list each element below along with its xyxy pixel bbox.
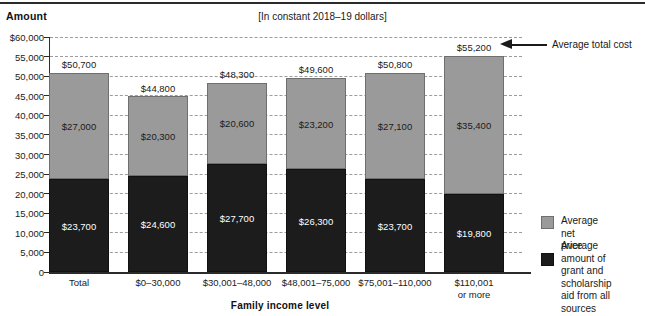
x-category-label: $110,001 or more: [422, 277, 526, 300]
bar-total-label: $48,300: [195, 69, 279, 80]
chart-figure: Amount [In constant 2018–19 dollars] $60…: [0, 0, 645, 316]
bar-segment-net-price[interactable]: $20,600: [207, 83, 267, 164]
bar-segment-value: $24,600: [129, 219, 187, 230]
bar-segment-value: $35,400: [445, 120, 503, 131]
bar-segment-value: $26,300: [287, 216, 345, 227]
bar-segment-value: $20,600: [208, 118, 266, 129]
bar-segment-value: $23,700: [366, 221, 424, 232]
x-axis-title: Family income level: [45, 300, 515, 311]
y-tick-label: 20,000: [15, 188, 44, 199]
bar-segment-value: $19,800: [445, 228, 503, 239]
bar-segment-value: $27,100: [366, 121, 424, 132]
y-tick-label: 30,000: [15, 149, 44, 160]
bar-segment-aid[interactable]: $24,600: [128, 176, 188, 272]
stacked-bar[interactable]: $23,700$27,000: [49, 73, 109, 272]
legend-label: Average amount of grant and scholarship …: [561, 240, 612, 315]
y-tick-label: $60,000: [10, 32, 44, 43]
bar-segment-aid[interactable]: $23,700: [49, 179, 109, 272]
stacked-bar[interactable]: $24,600$20,300: [128, 97, 188, 272]
callout-label: Average total cost: [552, 39, 632, 50]
bar-segment-value: $20,300: [129, 131, 187, 142]
bar-segment-value: $27,700: [208, 213, 266, 224]
bar-segment-net-price[interactable]: $35,400: [444, 56, 504, 195]
bar-segment-net-price[interactable]: $23,200: [286, 78, 346, 169]
bar-total-label: $50,800: [353, 59, 437, 70]
bar-segment-value: $23,200: [287, 119, 345, 130]
y-tick-label: 5,000: [20, 247, 44, 258]
units-note: [In constant 2018–19 dollars]: [0, 11, 645, 22]
stacked-bar[interactable]: $19,800$35,400: [444, 56, 504, 272]
callout-leader-line: [511, 44, 547, 46]
legend-swatch: [541, 216, 554, 229]
y-tick-label: 50,000: [15, 71, 44, 82]
bar-total-label: $49,600: [274, 64, 358, 75]
y-tick-label: 40,000: [15, 110, 44, 121]
stacked-bar[interactable]: $23,700$27,100: [365, 73, 425, 272]
bar-total-label: $50,700: [37, 59, 121, 70]
bar-segment-net-price[interactable]: $27,100: [365, 73, 425, 179]
y-tick-label: 35,000: [15, 129, 44, 140]
x-axis-line: [49, 272, 531, 274]
bar-segment-aid[interactable]: $23,700: [365, 179, 425, 272]
legend-swatch: [541, 253, 554, 266]
bar-segment-aid[interactable]: $27,700: [207, 164, 267, 272]
y-tick-label: 15,000: [15, 208, 44, 219]
stacked-bar[interactable]: $27,700$20,600: [207, 83, 267, 272]
bar-segment-net-price[interactable]: $20,300: [128, 96, 188, 176]
y-tick-label: 10,000: [15, 227, 44, 238]
bar-segment-aid[interactable]: $19,800: [444, 194, 504, 272]
bar-total-label: $44,800: [116, 83, 200, 94]
stacked-bar[interactable]: $26,300$23,200: [286, 78, 346, 272]
y-tick-label: 25,000: [15, 169, 44, 180]
bar-segment-value: $27,000: [50, 121, 108, 132]
bar-segment-value: $23,700: [50, 221, 108, 232]
top-divider: [0, 2, 645, 4]
bar-segment-net-price[interactable]: $27,000: [49, 73, 109, 179]
y-tick-label: 45,000: [15, 90, 44, 101]
bar-segment-aid[interactable]: $26,300: [286, 169, 346, 272]
plot-area: $23,700$27,000$50,700$24,600$20,300$44,8…: [49, 37, 530, 272]
